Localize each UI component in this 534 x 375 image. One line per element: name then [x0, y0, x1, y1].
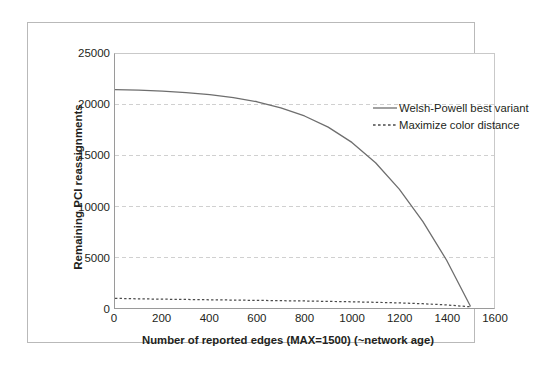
x-tick-label: 0 [111, 312, 117, 324]
series-line-maximize-color-distance [115, 298, 470, 306]
x-tick-label: 400 [200, 312, 219, 324]
chart-frame: 25000 20000 15000 10000 5000 0 Remaining… [27, 22, 475, 343]
legend-label: Welsh-Powell best variant [399, 102, 529, 114]
legend-entry-maximize-color-distance: Maximize color distance [372, 116, 534, 133]
legend-label: Maximize color distance [399, 119, 520, 131]
x-tick-label: 1200 [387, 312, 413, 324]
y-tick-label: 0 [54, 303, 110, 315]
legend-entry-welsh-powell: Welsh-Powell best variant [372, 99, 534, 116]
x-axis-tick-labels: 0 200 400 600 800 1000 1200 1400 1600 [114, 312, 495, 332]
x-tick-label: 200 [152, 312, 171, 324]
x-tick-label: 1400 [435, 312, 461, 324]
y-axis-title: Remaining PCI reassignments [72, 77, 84, 297]
plot-area: Welsh-Powell best variant Maximize color… [114, 53, 495, 309]
y-tick-label: 25000 [54, 47, 110, 59]
legend-solid-line-icon [372, 103, 398, 113]
x-tick-label: 800 [295, 312, 314, 324]
x-tick-label: 600 [247, 312, 266, 324]
x-axis-title: Number of reported edges (MAX=1500) (~ne… [58, 334, 518, 346]
plot-svg [115, 54, 494, 308]
legend-dashed-line-icon [372, 120, 398, 130]
x-tick-label: 1600 [482, 312, 508, 324]
chart-legend: Welsh-Powell best variant Maximize color… [372, 99, 534, 133]
x-tick-label: 1000 [339, 312, 365, 324]
